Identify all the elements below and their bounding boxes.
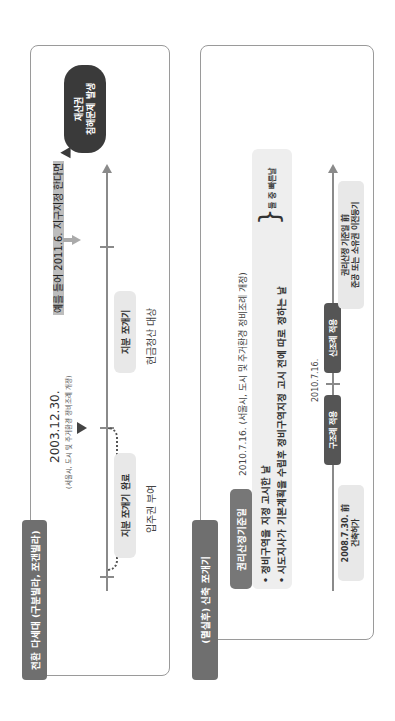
panel1-date-2003: 2003.12.30. [48, 390, 62, 463]
panel1-pill-split-complete: 지분 쪼개기 완료 [114, 453, 136, 558]
completion-line2: 준공 또는 소유권 이전등기 [351, 202, 361, 287]
panel2-new-rule-pill: 신조례 적용 [324, 303, 341, 373]
panel2-timeline [332, 171, 334, 591]
panel1-timeline-arrow-icon [102, 164, 112, 173]
panel2-brace: } [256, 208, 282, 225]
panel2-bullet-2: • 시도지사가 기본계획을 수립후 정비구역지정 고시 전에 따로 정하는 날 [274, 286, 288, 583]
permit-line2: 건축허가 [351, 519, 361, 547]
panel2-brace-note: 둘 중 빠른날 [266, 168, 277, 209]
permit-line1: 2008.7.30. 前 [341, 504, 351, 563]
panel1-tick-2011 [100, 246, 114, 248]
panel2-rights-date-tag: 권리산정기준일 [230, 489, 252, 589]
rotated-diagram-canvas: 전환 다세대 (구분빌라, 쪼갠빌라) 2003.12.30. (서울시, 도시… [0, 0, 395, 721]
panel1-down-arrow-icon [77, 422, 87, 434]
panel1-sub-occupancy-right: 입주권 부여 [143, 485, 158, 533]
panel1-tick-start [100, 576, 114, 578]
panel2-tick-2010 [326, 383, 340, 385]
panel2-building-permit-box: 2008.7.30. 前 건축허가 [338, 485, 364, 581]
bubble-line2: 침해문제 발생 [85, 83, 97, 134]
panel2-title-tag: (멸실후) 신축 쪼개기 [192, 520, 218, 680]
panel2-bullet-1: • 정비구역을 지정 고시한 날 [258, 465, 272, 583]
panel2-completion-box: 권리산정 기준일 前 준공 또는 소유권 이전등기 [338, 181, 364, 309]
panel1-sub-cash-settlement: 현금청산 대상 [143, 308, 158, 365]
panel1-pill-split: 지분 쪼개기 [114, 291, 136, 373]
panel2-date-note-text: 2010.7.16. (서울시, 도시 및 주거환경 정비조례 개정) [238, 272, 248, 476]
panel2-date-note: 2010.7.16. (서울시, 도시 및 주거환경 정비조례 개정) [236, 272, 249, 476]
panel2-timeline-arrow-icon [328, 164, 338, 173]
panel2-timeline-date: 2010.7.16. [311, 359, 320, 402]
completion-line1: 권리산정 기준일 前 [341, 214, 351, 277]
panel1-property-rights-bubble: 재산권 침해문제 발생 [64, 65, 106, 153]
panel1-date-2003-note: (서울시, 도시 및 주거환경 정비조례 개정) [63, 376, 73, 489]
panel1-gray-arrow-icon [72, 235, 81, 245]
panel1-title-tag: 전환 다세대 (구분빌라, 쪼갠빌라) [22, 520, 47, 680]
bubble-line1: 재산권 [73, 97, 85, 121]
panel2-old-rule-pill: 구조례 적용 [324, 395, 341, 465]
panel1-gray-arrow-stem [63, 238, 73, 242]
